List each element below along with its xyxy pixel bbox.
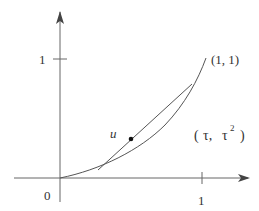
tau-x: τ, — [203, 128, 212, 143]
paren-open: ( — [194, 128, 199, 144]
endpoint-label: (1, 1) — [211, 52, 239, 67]
paren-close: ) — [240, 128, 245, 144]
x-tick-label: 1 — [198, 193, 205, 208]
diagram-canvas: 0 1 1 (1, 1) u ( τ, τ 2 ) — [0, 0, 259, 211]
curve-point-label: ( τ, τ 2 ) — [194, 123, 245, 144]
curve — [60, 58, 206, 178]
exponent: 2 — [230, 123, 235, 133]
origin-label: 0 — [44, 188, 51, 203]
x-axis — [14, 172, 250, 184]
y-tick-label: 1 — [39, 52, 46, 67]
point-u-label: u — [110, 126, 117, 141]
point-u — [129, 137, 134, 142]
y-axis — [53, 11, 67, 202]
tau-y: τ — [222, 128, 228, 143]
